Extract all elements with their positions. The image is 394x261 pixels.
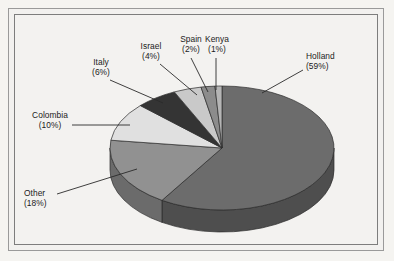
slice-label-italy: Italy (6%) xyxy=(80,57,122,77)
slice-label-holland-pct: (59%) xyxy=(306,61,335,71)
slice-label-italy-pct: (6%) xyxy=(80,67,122,77)
slice-label-other-name: Other xyxy=(24,188,47,198)
slice-label-israel-name: Israel xyxy=(129,41,173,51)
slice-label-israel-pct: (4%) xyxy=(129,51,173,61)
leader-line-holland xyxy=(262,70,303,93)
leader-line-spain xyxy=(191,58,208,92)
slice-label-other-pct: (18%) xyxy=(24,198,47,208)
pie-chart-figure: Holland (59%) Kenya (1%) Spain (2%) Isra… xyxy=(0,0,394,261)
slice-label-spain-name: Spain xyxy=(170,34,212,44)
leader-line-italy xyxy=(110,80,163,103)
leader-line-israel xyxy=(160,64,197,95)
slice-label-israel: Israel (4%) xyxy=(129,41,173,61)
slice-label-italy-name: Italy xyxy=(80,57,122,67)
slice-label-holland: Holland (59%) xyxy=(306,51,335,71)
slice-label-colombia: Colombia (10%) xyxy=(26,110,74,130)
pie-slices xyxy=(110,86,334,210)
slice-label-spain-pct: (2%) xyxy=(170,44,212,54)
slice-label-other: Other (18%) xyxy=(24,188,47,208)
slice-label-colombia-name: Colombia xyxy=(26,110,74,120)
slice-label-holland-name: Holland xyxy=(306,51,335,61)
slice-label-spain: Spain (2%) xyxy=(170,34,212,54)
slice-label-colombia-pct: (10%) xyxy=(26,120,74,130)
plot-area: Holland (59%) Kenya (1%) Spain (2%) Isra… xyxy=(0,0,394,261)
